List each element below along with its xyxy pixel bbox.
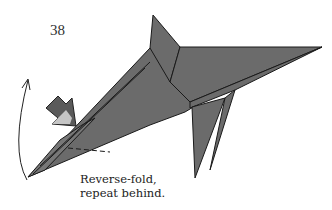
origami-diagram bbox=[0, 0, 332, 210]
instruction-caption: Reverse-fold, repeat behind. bbox=[80, 172, 165, 200]
origami-model bbox=[28, 15, 322, 178]
caption-line-2: repeat behind. bbox=[80, 186, 165, 200]
push-arrow-icon bbox=[46, 96, 76, 126]
caption-line-1: Reverse-fold, bbox=[80, 172, 165, 186]
rotate-arrow-icon bbox=[19, 79, 30, 180]
